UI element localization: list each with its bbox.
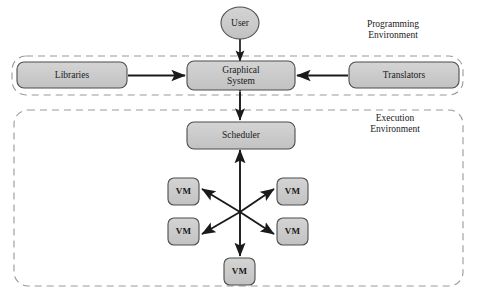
connector-hub-to-vm-bottom-left bbox=[202, 212, 240, 234]
node-vm-bottom-center[interactable] bbox=[224, 258, 255, 285]
programming-environment-label: Programming Environment bbox=[334, 19, 452, 41]
node-libraries[interactable] bbox=[17, 62, 127, 88]
diagram-graphics bbox=[0, 0, 479, 301]
node-vm-top-right[interactable] bbox=[277, 178, 308, 205]
connector-hub-to-vm-bottom-right bbox=[240, 212, 274, 234]
execution-environment-label: Execution Environment bbox=[336, 113, 454, 135]
node-scheduler[interactable] bbox=[187, 122, 295, 149]
node-graphical-system[interactable] bbox=[187, 61, 295, 90]
node-translators[interactable] bbox=[349, 62, 459, 88]
node-vm-bottom-right[interactable] bbox=[277, 218, 308, 245]
diagram-canvas: User Libraries Graphical System Translat… bbox=[0, 0, 479, 301]
node-vm-bottom-left[interactable] bbox=[168, 218, 199, 245]
node-vm-top-left[interactable] bbox=[168, 178, 199, 205]
node-user[interactable] bbox=[221, 7, 259, 39]
connector-hub-to-vm-top-right bbox=[240, 189, 274, 212]
connector-hub-to-vm-top-left bbox=[202, 189, 240, 212]
